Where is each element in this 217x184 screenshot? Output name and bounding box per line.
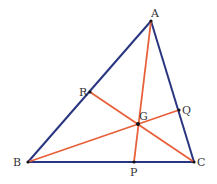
median-ap — [134, 21, 151, 162]
point-c — [192, 160, 195, 163]
point-p — [132, 160, 135, 163]
label-c: C — [197, 156, 205, 169]
label-a: A — [150, 7, 160, 20]
label-p: P — [130, 166, 138, 179]
side-ca — [151, 21, 194, 162]
label-g: G — [139, 110, 148, 123]
point-q — [177, 108, 180, 111]
label-b: B — [13, 156, 21, 169]
point-b — [26, 160, 29, 163]
label-q: Q — [182, 104, 191, 117]
triangle-diagram: A B C P Q R G — [0, 0, 217, 184]
point-r — [88, 90, 91, 93]
label-r: R — [79, 86, 88, 99]
